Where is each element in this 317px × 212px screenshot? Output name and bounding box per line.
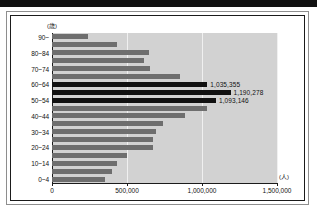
y-axis-label-90-: 90~	[38, 33, 49, 40]
bar-row: 1,093,146	[11, 98, 277, 103]
bar-5-9[interactable]	[52, 169, 112, 174]
bar-row	[11, 106, 277, 111]
bar-row	[11, 113, 277, 118]
bar-row: 1,035,355	[11, 82, 277, 87]
x-tick-label-3: 1,500,000	[263, 187, 292, 194]
y-axis-label-10-14: 10~14	[31, 160, 49, 167]
bar-55-59[interactable]	[52, 90, 231, 95]
bar-10-14[interactable]	[52, 161, 117, 166]
bar-row	[11, 153, 277, 158]
bar-row	[11, 121, 277, 126]
y-axis-label-40-44: 40~44	[31, 112, 49, 119]
bar-row	[11, 137, 277, 142]
bar-row	[11, 42, 277, 47]
bar-row	[11, 161, 277, 166]
bar-20-24[interactable]	[52, 145, 153, 150]
x-tick-0	[52, 183, 53, 186]
figure-inner-border: 1,035,3551,190,2781,093,146 90~80~8470~7…	[10, 15, 305, 201]
bar-75-79[interactable]	[52, 58, 144, 63]
x-tick-label-0: 0	[50, 187, 54, 194]
bar-80-84[interactable]	[52, 50, 149, 55]
y-axis-label-0-4: 0~4	[38, 176, 49, 183]
x-tick-1	[127, 183, 128, 186]
figure-frame: 1,035,3551,190,2781,093,146 90~80~8470~7…	[6, 11, 309, 205]
bar-value-label-60-64: 1,035,355	[210, 81, 240, 88]
bar-row	[11, 50, 277, 55]
y-axis-label-20-24: 20~24	[31, 144, 49, 151]
gridline-1500000	[277, 33, 278, 183]
x-tick-3	[277, 183, 278, 186]
bar-row	[11, 169, 277, 174]
bar-45-49[interactable]	[52, 106, 207, 111]
population-pyramid-chart: 1,035,3551,190,2781,093,146 90~80~8470~7…	[11, 16, 314, 210]
x-tick-label-2: 1,000,000	[188, 187, 217, 194]
x-tick-label-1: 500,000	[115, 187, 139, 194]
x-axis-unit-label: (人)	[279, 172, 289, 181]
bar-row	[11, 177, 277, 182]
screenshot-root: 1,035,3551,190,2781,093,146 90~80~8470~7…	[0, 0, 317, 212]
bar-50-54[interactable]	[52, 98, 216, 103]
bar-15-19[interactable]	[52, 153, 127, 158]
bar-row	[11, 129, 277, 134]
bar-row: 1,190,278	[11, 90, 277, 95]
bar-40-44[interactable]	[52, 113, 185, 118]
top-black-band	[0, 0, 317, 7]
y-axis-unit-label: (歳)	[47, 21, 57, 30]
bar-65-69[interactable]	[52, 74, 180, 79]
y-axis-label-30-34: 30~34	[31, 128, 49, 135]
y-axis-label-60-64: 60~64	[31, 81, 49, 88]
bar-35-39[interactable]	[52, 121, 163, 126]
bar-25-29[interactable]	[52, 137, 153, 142]
bar-60-64[interactable]	[52, 82, 207, 87]
y-axis-labels: 90~80~8470~7460~6450~5440~4430~3420~2410…	[11, 16, 49, 210]
bar-0-4[interactable]	[52, 177, 105, 182]
bar-value-label-50-54: 1,093,146	[219, 97, 249, 104]
y-axis-label-50-54: 50~54	[31, 97, 49, 104]
y-axis-label-70-74: 70~74	[31, 65, 49, 72]
bar-row	[11, 74, 277, 79]
bar-row	[11, 58, 277, 63]
y-axis-label-80-84: 80~84	[31, 49, 49, 56]
bar-90-[interactable]	[52, 34, 88, 39]
bar-row	[11, 34, 277, 39]
x-tick-2	[202, 183, 203, 186]
bar-row	[11, 145, 277, 150]
bar-85-89[interactable]	[52, 42, 117, 47]
bar-value-label-55-59: 1,190,278	[234, 89, 264, 96]
x-axis-line	[52, 183, 278, 184]
bar-row	[11, 66, 277, 71]
bar-30-34[interactable]	[52, 129, 156, 134]
bar-70-74[interactable]	[52, 66, 150, 71]
